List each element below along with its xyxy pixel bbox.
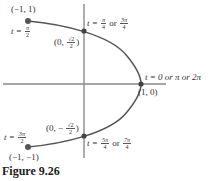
label-bottom-endpoint: (−1, −1): [9, 153, 39, 162]
fraction: π 2: [25, 25, 30, 38]
label-lower-intercept-t: t = 5π 4 or 7π 4: [87, 137, 132, 150]
t-prefix: t =: [87, 18, 98, 28]
point-vertex: [138, 81, 143, 86]
figure-caption: Figure 9.26: [2, 164, 60, 179]
t-prefix: t =: [11, 26, 22, 36]
numerator: 3π: [18, 131, 26, 138]
point-lower-intercept: [81, 133, 86, 138]
denominator: 2: [68, 129, 73, 135]
label-top-endpoint-t: t = π 2: [11, 25, 31, 38]
label-vertex: (1, 0): [138, 88, 158, 97]
numerator: 7π: [123, 137, 131, 144]
fraction: √2 2: [66, 122, 74, 135]
fraction-2: 7π 4: [123, 137, 131, 150]
t-prefix: t =: [4, 132, 15, 142]
coord-suffix: ): [76, 37, 79, 47]
denominator: 2: [20, 138, 25, 144]
point-top-endpoint: [25, 18, 31, 24]
numerator: 5π: [101, 137, 109, 144]
denominator: 4: [122, 24, 127, 30]
fraction: 3π 2: [18, 131, 26, 144]
denominator: 2: [25, 32, 30, 38]
fraction-1: π 4: [101, 17, 106, 30]
numerator: √2: [66, 122, 74, 129]
t-prefix: t =: [87, 138, 98, 148]
numerator: 3π: [120, 17, 128, 24]
denominator: 4: [125, 144, 130, 150]
denominator: 4: [103, 144, 108, 150]
fraction-2: 3π 4: [120, 17, 128, 30]
denominator: 2: [69, 43, 74, 49]
fraction: √2 2: [67, 36, 75, 49]
label-top-endpoint: (−1, 1): [11, 5, 36, 14]
coord-prefix: (0, −: [46, 123, 63, 133]
label-bottom-endpoint-t: t = 3π 2: [4, 131, 27, 144]
label-upper-intercept: (0, √2 2 ): [54, 36, 79, 49]
fraction-1: 5π 4: [101, 137, 109, 150]
label-vertex-t: t = 0 or π or 2π: [145, 73, 201, 82]
coord-prefix: (0,: [54, 37, 64, 47]
or-text: or: [112, 138, 120, 148]
label-lower-intercept: (0, − √2 2 ): [46, 122, 79, 135]
numerator: π: [101, 17, 106, 24]
or-text: or: [109, 18, 117, 28]
denominator: 4: [101, 24, 106, 30]
coord-suffix: ): [76, 123, 79, 133]
numerator: √2: [67, 36, 75, 43]
point-upper-intercept: [81, 28, 86, 33]
label-upper-intercept-t: t = π 4 or 3π 4: [87, 17, 129, 30]
point-bottom-endpoint: [25, 144, 31, 150]
numerator: π: [25, 25, 30, 32]
